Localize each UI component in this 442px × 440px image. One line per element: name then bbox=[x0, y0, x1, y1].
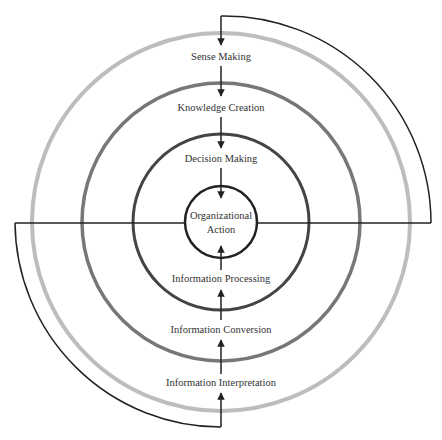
label-sense-making: Sense Making bbox=[190, 51, 252, 63]
label-knowledge-creation: Knowledge Creation bbox=[176, 102, 265, 114]
label-organizational: Organizational bbox=[189, 210, 253, 222]
diagram-canvas: Sense Making Knowledge Creation Decision… bbox=[0, 0, 442, 440]
outer-arc-top-right bbox=[221, 16, 431, 223]
label-information-interpretation: Information Interpretation bbox=[165, 377, 277, 389]
label-information-conversion: Information Conversion bbox=[169, 324, 272, 336]
label-decision-making: Decision Making bbox=[184, 153, 259, 165]
label-information-processing: Information Processing bbox=[171, 273, 271, 285]
label-action: Action bbox=[206, 224, 237, 236]
